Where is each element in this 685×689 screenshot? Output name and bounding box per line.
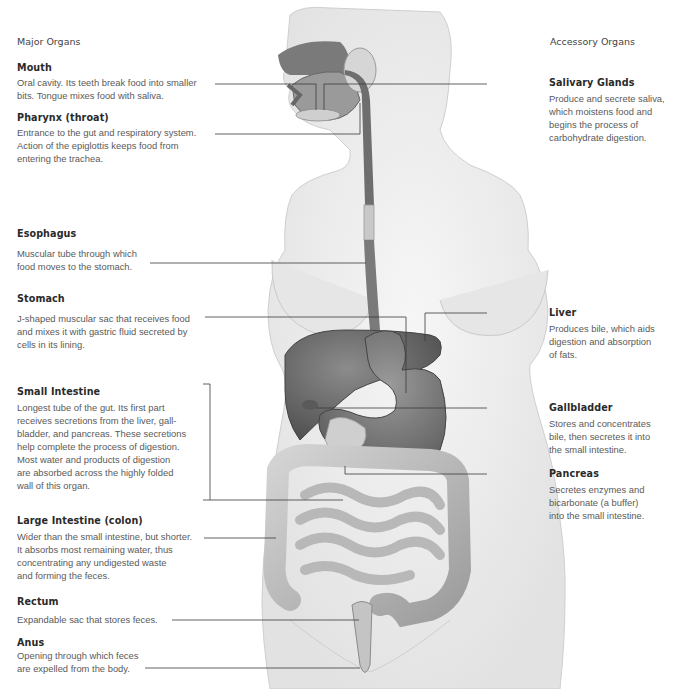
desc-line: bile, then secretes it into bbox=[549, 430, 684, 443]
organ-title: Esophagus bbox=[17, 228, 217, 239]
organ-title: Rectum bbox=[17, 596, 217, 607]
organ-title: Salivary Glands bbox=[549, 77, 684, 88]
label-large-intestine: Large Intestine (colon) Wider than the s… bbox=[17, 515, 227, 582]
desc-line: Expandable sac that stores feces. bbox=[17, 613, 217, 626]
desc-line: Stores and concentrates bbox=[549, 417, 684, 430]
desc-line: and mixes it with gastric fluid secreted… bbox=[17, 325, 227, 338]
label-small-intestine: Small Intestine Longest tube of the gut.… bbox=[17, 386, 217, 492]
desc-line: Secretes enzymes and bbox=[549, 483, 684, 496]
desc-line: Entrance to the gut and respiratory syst… bbox=[17, 126, 227, 139]
desc-line: help complete the process of digestion. bbox=[17, 440, 217, 453]
organ-title: Small Intestine bbox=[17, 386, 217, 397]
desc-line: carbohydrate digestion. bbox=[549, 131, 684, 144]
desc-line: are absorbed across the highly folded bbox=[17, 466, 217, 479]
desc-line: concentrating any undigested waste bbox=[17, 556, 227, 569]
organ-title: Large Intestine (colon) bbox=[17, 515, 227, 526]
desc-line: food moves to the stomach. bbox=[17, 260, 217, 273]
organ-title: Stomach bbox=[17, 293, 227, 304]
organ-title: Mouth bbox=[17, 62, 227, 73]
organ-description: Longest tube of the gut. Its first part … bbox=[17, 401, 217, 492]
desc-line: Oral cavity. Its teeth break food into s… bbox=[17, 76, 227, 89]
desc-line: Opening through which feces bbox=[17, 649, 217, 662]
desc-line: which moistens food and bbox=[549, 105, 684, 118]
gallbladder-shape bbox=[302, 400, 318, 410]
desc-line: bits. Tongue mixes food with saliva. bbox=[17, 89, 227, 102]
organ-description: Muscular tube through which food moves t… bbox=[17, 247, 217, 273]
desc-line: Longest tube of the gut. Its first part bbox=[17, 401, 217, 414]
label-mouth: Mouth Oral cavity. Its teeth break food … bbox=[17, 62, 227, 102]
organ-description: Secretes enzymes and bicarbonate (a buff… bbox=[549, 483, 684, 522]
desc-line: Wider than the small intestine, but shor… bbox=[17, 530, 227, 543]
label-pancreas: Pancreas Secretes enzymes and bicarbonat… bbox=[549, 468, 684, 522]
organ-title: Anus bbox=[17, 637, 217, 648]
organ-title: Liver bbox=[549, 307, 684, 318]
desc-line: into the small intestine. bbox=[549, 509, 684, 522]
label-pharynx: Pharynx (throat) Entrance to the gut and… bbox=[17, 112, 227, 165]
label-esophagus: Esophagus Muscular tube through which fo… bbox=[17, 228, 217, 273]
desc-line: Most water and products of digestion bbox=[17, 453, 217, 466]
desc-line: the small intestine. bbox=[549, 443, 684, 456]
desc-line: bladder, and pancreas. These secretions bbox=[17, 427, 217, 440]
desc-line: Produce and secrete saliva, bbox=[549, 92, 684, 105]
label-rectum: Rectum Expandable sac that stores feces. bbox=[17, 596, 217, 626]
label-stomach: Stomach J-shaped muscular sac that recei… bbox=[17, 293, 227, 351]
desc-line: receives secretions from the liver, gall… bbox=[17, 414, 217, 427]
desc-line: Action of the epiglottis keeps food from bbox=[17, 139, 227, 152]
desc-line: bicarbonate (a buffer) bbox=[549, 496, 684, 509]
organ-description: Expandable sac that stores feces. bbox=[17, 613, 217, 626]
organ-description: Oral cavity. Its teeth break food into s… bbox=[17, 76, 227, 102]
desc-line: entering the trachea. bbox=[17, 152, 227, 165]
major-organs-heading: Major Organs bbox=[17, 36, 80, 47]
organ-description: Produce and secrete saliva, which moiste… bbox=[549, 92, 684, 144]
desc-line: Produces bile, which aids bbox=[549, 322, 684, 335]
label-anus: Anus Opening through which feces are exp… bbox=[17, 637, 217, 675]
organ-description: Produces bile, which aids digestion and … bbox=[549, 322, 684, 361]
organ-description: Entrance to the gut and respiratory syst… bbox=[17, 126, 227, 165]
organ-title: Gallbladder bbox=[549, 402, 684, 413]
label-salivary-glands: Salivary Glands Produce and secrete sali… bbox=[549, 77, 684, 144]
desc-line: wall of this organ. bbox=[17, 479, 217, 492]
label-gallbladder: Gallbladder Stores and concentrates bile… bbox=[549, 402, 684, 456]
desc-line: J-shaped muscular sac that receives food bbox=[17, 312, 227, 325]
desc-line: of fats. bbox=[549, 348, 684, 361]
desc-line: Muscular tube through which bbox=[17, 247, 217, 260]
desc-line: and forming the feces. bbox=[17, 569, 227, 582]
organ-title: Pancreas bbox=[549, 468, 684, 479]
organ-title: Pharynx (throat) bbox=[17, 112, 227, 123]
desc-line: digestion and absorption bbox=[549, 335, 684, 348]
desc-line: begins the process of bbox=[549, 118, 684, 131]
organ-description: Wider than the small intestine, but shor… bbox=[17, 530, 227, 582]
organ-description: J-shaped muscular sac that receives food… bbox=[17, 312, 227, 351]
accessory-organs-heading: Accessory Organs bbox=[550, 36, 635, 47]
organ-description: Opening through which feces are expelled… bbox=[17, 649, 217, 675]
organ-description: Stores and concentrates bile, then secre… bbox=[549, 417, 684, 456]
desc-line: It absorbs most remaining water, thus bbox=[17, 543, 227, 556]
desc-line: are expelled from the body. bbox=[17, 662, 217, 675]
desc-line: cells in its lining. bbox=[17, 338, 227, 351]
label-liver: Liver Produces bile, which aids digestio… bbox=[549, 307, 684, 361]
